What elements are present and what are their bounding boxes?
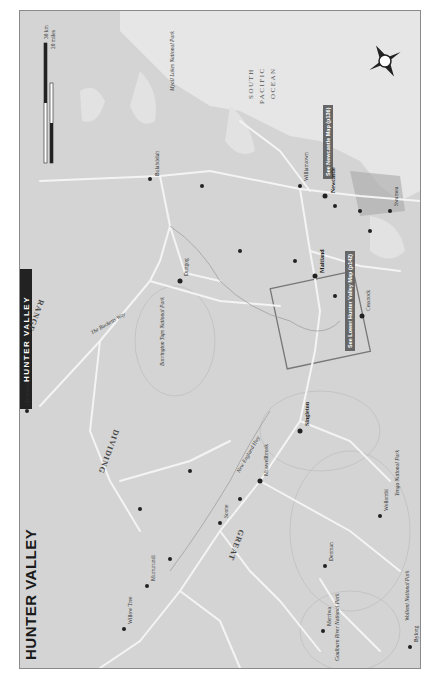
map-title: HUNTER VALLEY	[22, 529, 39, 660]
map-frame: HUNTER VALLEY SOUTH PACIFIC OCEAN GREAT …	[19, 10, 421, 669]
park-myall-lakes: Myall Lakes National Park	[170, 31, 176, 91]
town-willow-tree[interactable]: Willow Tree	[128, 597, 134, 624]
ocean-label: SOUTH	[248, 68, 255, 99]
town-cessnock[interactable]: Cessnock	[366, 290, 372, 311]
ocean-label: OCEAN	[270, 67, 277, 99]
town-markers	[25, 177, 412, 649]
ocean-area	[120, 11, 420, 201]
town-dungog[interactable]: Dungog	[184, 258, 190, 276]
town-singleton[interactable]: Singleton	[304, 402, 310, 426]
town-williamtown[interactable]: Williamtown	[304, 152, 310, 181]
lower-hunter-map-callout[interactable]: See Lower Hunter Valley Map (p142)	[345, 251, 355, 351]
park-yengo: Yengo National Park	[395, 450, 401, 496]
park-wollemi: Wollemi National Park	[405, 570, 411, 621]
map-canvas[interactable]	[20, 11, 420, 668]
park-barrington-tops: Barrington Tops National Park	[160, 297, 166, 366]
myall-lake	[130, 71, 156, 124]
compass-north-icon	[365, 41, 405, 81]
town-swansea[interactable]: Swansea	[394, 187, 400, 206]
ocean-label: PACIFIC	[259, 67, 266, 104]
town-gloucester[interactable]: Gloucester	[25, 382, 31, 406]
park-goulburn-river: Goulburn River National Park	[335, 594, 341, 661]
town-newcastle[interactable]: Newcastle	[330, 167, 336, 193]
lake-macquarie	[370, 216, 405, 259]
town-murrurundi[interactable]: Murrurundi	[151, 555, 157, 581]
town-merriwa[interactable]: Merriwa	[327, 607, 333, 626]
town-scone[interactable]: Scone	[224, 505, 230, 518]
town-bylong[interactable]: Bylong	[414, 626, 420, 642]
town-muswellbrook[interactable]: Muswellbrook	[264, 444, 270, 476]
scale-km: 30 km	[44, 25, 50, 39]
town-denman[interactable]: Denman	[329, 542, 335, 561]
wallis-lake	[80, 88, 105, 122]
town-bulahdelah[interactable]: Bulahdelah	[155, 151, 161, 176]
scale-miles: 20 miles	[51, 30, 57, 49]
town-maitland[interactable]: Maitland	[319, 249, 325, 273]
town-wollombi[interactable]: Wollombi	[384, 489, 390, 511]
